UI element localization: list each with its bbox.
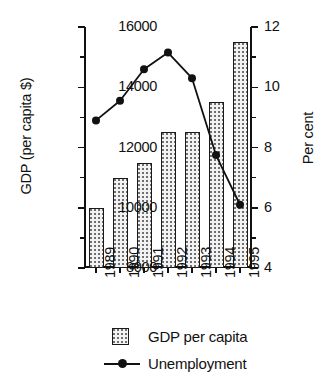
y-axis-right-tick bbox=[251, 147, 258, 149]
x-axis-tick-label: 1994 bbox=[222, 247, 238, 278]
chart-legend: GDP per capita Unemployment bbox=[0, 326, 333, 380]
y-axis-right-tick-label: 4 bbox=[264, 259, 272, 275]
x-axis-tick-label: 1993 bbox=[198, 247, 214, 278]
y-axis-right-tick-label: 10 bbox=[264, 78, 280, 94]
data-point-marker bbox=[164, 49, 172, 57]
legend-label-gdp: GDP per capita bbox=[148, 328, 247, 345]
y-axis-left-tick-label: 14000 bbox=[77, 78, 157, 94]
y-axis-right-title: Per cent bbox=[300, 83, 316, 193]
y-axis-left-tick-label: 12000 bbox=[77, 139, 157, 155]
y-axis-left-tick-label: 16000 bbox=[77, 18, 157, 34]
x-axis-tick-label: 1989 bbox=[102, 247, 118, 278]
data-point-marker bbox=[236, 201, 244, 209]
data-point-marker bbox=[212, 151, 220, 159]
y-axis-left-title: GDP (per capita $) bbox=[18, 46, 34, 226]
unemployment-line bbox=[96, 53, 240, 205]
x-axis-tick-label: 1991 bbox=[150, 247, 166, 278]
y-axis-right-tick-label: 12 bbox=[264, 18, 280, 34]
y-axis-right-tick bbox=[251, 87, 258, 89]
legend-swatch-icon bbox=[112, 328, 129, 345]
x-axis-tick-label: 1995 bbox=[246, 247, 262, 278]
data-point-marker bbox=[92, 116, 100, 124]
y-axis-right-tick-label: 8 bbox=[264, 139, 272, 155]
data-point-marker bbox=[140, 65, 148, 73]
legend-item-unemployment: Unemployment bbox=[0, 353, 333, 380]
legend-line-marker-icon bbox=[104, 363, 140, 365]
x-axis-tick-label: 1990 bbox=[126, 247, 142, 278]
y-axis-right-tick bbox=[251, 26, 258, 28]
data-point-marker bbox=[188, 74, 196, 82]
unemployment-markers bbox=[92, 49, 244, 209]
y-axis-left-tick-label: 10000 bbox=[77, 199, 157, 215]
data-point-marker bbox=[116, 97, 124, 105]
chart-figure: GDP (per capita $) Per cent 800010000120… bbox=[0, 0, 333, 389]
x-axis-tick-label: 1992 bbox=[174, 247, 190, 278]
legend-label-unemployment: Unemployment bbox=[148, 355, 246, 372]
y-axis-right-tick-label: 6 bbox=[264, 199, 272, 215]
legend-item-gdp: GDP per capita bbox=[0, 326, 333, 353]
y-axis-right-tick bbox=[251, 207, 258, 209]
